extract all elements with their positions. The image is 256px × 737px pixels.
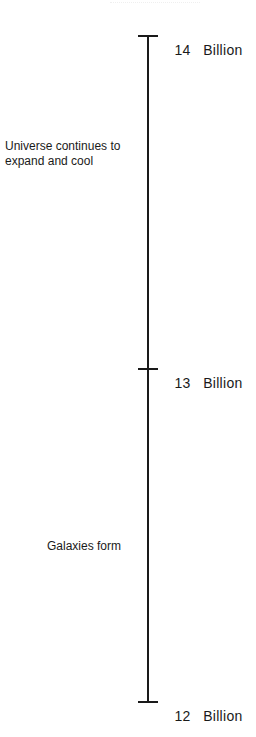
tick-unit: Billion <box>203 708 242 724</box>
event-galaxies-form: Galaxies form <box>47 539 121 554</box>
tick-label-13-billion: 13 Billion <box>166 359 243 391</box>
tick-13-billion <box>138 368 158 370</box>
tick-value: 14 <box>174 42 190 58</box>
tick-label-14-billion: 14 Billion <box>166 26 243 58</box>
tick-unit: Billion <box>203 375 242 391</box>
tick-label-12-billion: 12 Billion <box>166 692 243 724</box>
event-universe-expands: Universe continues to expand and cool <box>5 139 120 169</box>
tick-unit: Billion <box>203 42 242 58</box>
tick-value: 13 <box>174 375 190 391</box>
tick-value: 12 <box>174 708 190 724</box>
cropped-header-remnant <box>110 0 200 3</box>
tick-14-billion <box>138 35 158 37</box>
tick-12-billion <box>138 701 158 703</box>
